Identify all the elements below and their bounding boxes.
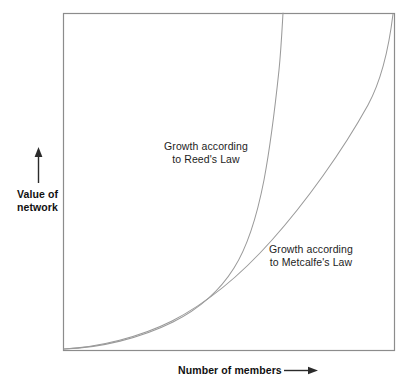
y-axis-label-line2: network [17, 201, 58, 214]
x-axis-arrow-icon [284, 367, 318, 375]
reed-annotation-line1: Growth according [158, 140, 254, 153]
metcalfe-law-annotation: Growth according to Metcalfe's Law [258, 243, 364, 269]
network-value-chart: Growth according to Reed's Law Growth ac… [0, 0, 412, 387]
metcalfe-annotation-line1: Growth according [258, 243, 364, 256]
metcalfe-annotation-line2: to Metcalfe's Law [258, 256, 364, 269]
chart-canvas [0, 0, 412, 387]
reed-law-annotation: Growth according to Reed's Law [158, 140, 254, 166]
y-axis-arrow-icon [35, 147, 43, 183]
y-axis-label-line1: Value of [17, 188, 58, 201]
plot-frame [64, 14, 395, 351]
y-axis-label: Value of network [17, 188, 58, 214]
x-axis-label: Number of members [178, 364, 282, 377]
reed-annotation-line2: to Reed's Law [158, 153, 254, 166]
